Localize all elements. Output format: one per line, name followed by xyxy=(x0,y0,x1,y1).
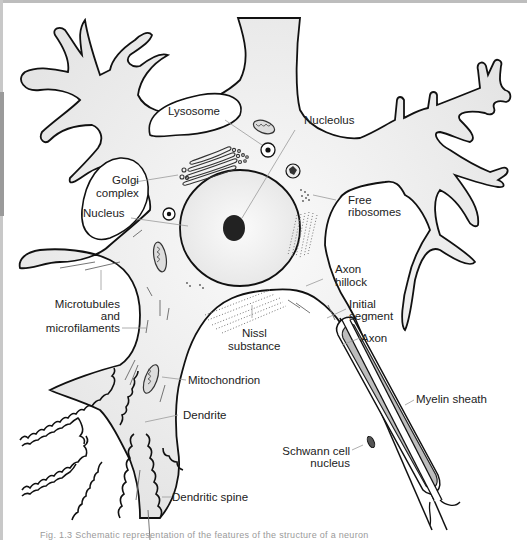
label-golgi-2: complex xyxy=(96,187,136,200)
label-free-ribosomes-2: ribosomes xyxy=(348,206,401,219)
label-nissl-1: Nissl xyxy=(242,327,267,340)
label-myelin-sheath: Myelin sheath xyxy=(416,393,487,406)
figure-caption: Fig. 1.3 Schematic representation of the… xyxy=(40,530,369,540)
neuron-diagram xyxy=(0,0,527,540)
label-nucleus: Nucleus xyxy=(83,207,125,220)
label-axon-hillock-2: hillock xyxy=(335,276,367,289)
label-lysosome: Lysosome xyxy=(168,105,220,118)
label-mitochondrion: Mitochondrion xyxy=(188,374,260,387)
label-microtubules-3: microfilaments xyxy=(30,322,120,335)
nucleolus xyxy=(223,215,245,241)
diagram-frame: Lysosome Nucleolus Golgi complex Nucleus… xyxy=(0,0,527,540)
label-schwann-2: nucleus xyxy=(270,457,350,470)
label-nucleolus: Nucleolus xyxy=(304,114,355,127)
schwann-cell-nucleus xyxy=(366,435,377,448)
label-dendrite: Dendrite xyxy=(183,409,226,422)
label-golgi-1: Golgi xyxy=(112,174,136,187)
label-axon: Axon xyxy=(361,332,387,345)
label-nissl-2: substance xyxy=(228,340,280,353)
label-initial-segment-2: segment xyxy=(349,310,393,323)
myelin-sheath xyxy=(337,317,460,525)
label-dendritic-spine: Dendritic spine xyxy=(172,491,248,504)
label-axon-hillock-1: Axon xyxy=(335,263,361,276)
